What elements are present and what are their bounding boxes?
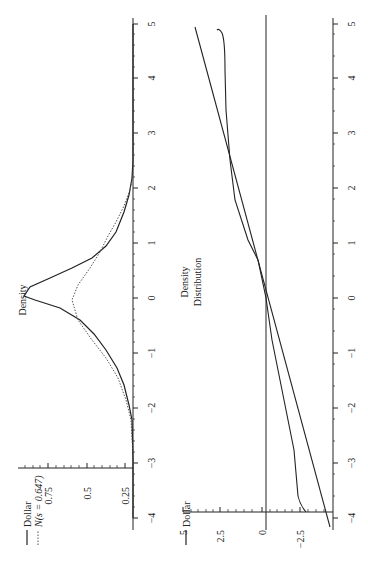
legend-top-dollar: Dollar [22,501,33,527]
svg-text:5: 5 [146,22,157,27]
svg-text:0: 0 [346,296,357,301]
top-value-ticks [48,463,125,468]
legend-bottom-dollar: Dollar [181,501,192,527]
svg-text:−1: −1 [346,348,357,359]
top-value-label-025: 0.25 [120,487,131,505]
top-value-label-075: 0.75 [43,487,54,505]
bottom-value-label-neg25: −2.5 [295,530,306,548]
top-domain-tick-labels: −4 −3 −2 −1 0 1 2 3 4 5 [146,22,157,524]
svg-text:2: 2 [346,186,357,191]
svg-text:3: 3 [346,131,357,136]
top-value-label-05: 0.5 [82,487,93,500]
svg-text:−2: −2 [146,403,157,414]
reference-line [195,27,330,527]
legend-top-normal: N(s = 0.647) [33,475,45,528]
dollar-distribution-curve [217,29,306,512]
svg-text:3: 3 [146,131,157,136]
svg-text:−3: −3 [146,458,157,469]
bottom-value-label-25: 2.5 [215,530,226,543]
bottom-value-label-0: 0 [257,530,268,535]
mid-density-label: Density [179,266,190,297]
top-density-title: Density [17,284,28,315]
svg-text:1: 1 [146,241,157,246]
svg-text:5: 5 [346,22,357,27]
figure: 0.75 0.5 0.25 −4 −3 −2 −1 0 1 2 3 4 5 Do… [0,0,368,563]
svg-text:−3: −3 [346,458,357,469]
bottom-domain-ticks [333,24,338,518]
bottom-value-label-5: 5 [178,530,189,535]
svg-text:−4: −4 [146,513,157,524]
top-domain-ticks [133,24,138,518]
svg-text:4: 4 [146,76,157,81]
svg-text:−1: −1 [146,348,157,359]
svg-text:0: 0 [146,296,157,301]
mid-distribution-label: Distribution [192,258,203,306]
bottom-domain-tick-labels: −4 −3 −2 −1 0 1 2 3 4 5 [346,22,357,524]
svg-text:2: 2 [146,186,157,191]
bottom-value-ticks [183,507,300,512]
svg-text:−4: −4 [346,513,357,524]
svg-text:4: 4 [346,76,357,81]
svg-text:−2: −2 [346,403,357,414]
normal-density-curve [72,24,133,518]
dollar-density-curve [24,24,133,518]
svg-text:1: 1 [346,241,357,246]
